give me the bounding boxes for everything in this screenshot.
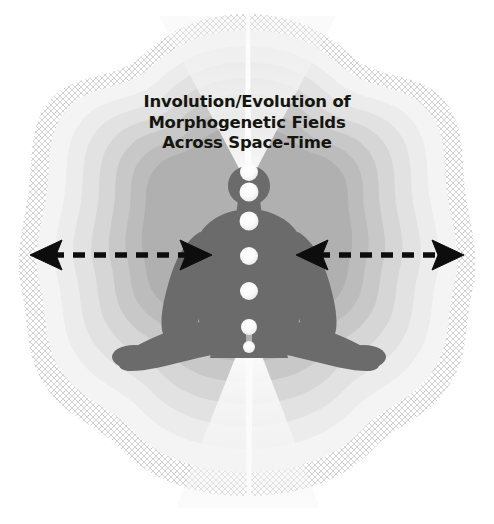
chakra-sacral [241,319,257,335]
figure-left-knee [112,345,156,369]
chakra-heart [240,247,258,265]
morphogenetic-fields-figure: Involution/Evolution of Morphogenetic Fi… [0,0,494,524]
chakra-third-eye [240,183,259,202]
chakra-crown [240,163,258,181]
chakra-solar-plexus [240,282,258,300]
chakra-throat [240,212,259,231]
figure-right-knee [342,345,386,369]
chakra-root [243,341,255,353]
figure-canvas [0,0,494,524]
chakra-points [240,163,259,353]
